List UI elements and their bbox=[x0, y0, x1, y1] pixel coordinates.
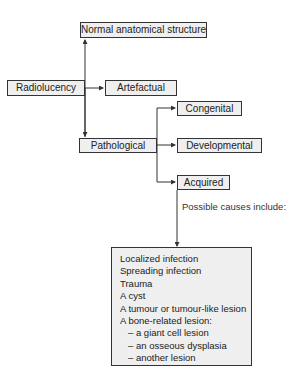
node-acquired: Acquired bbox=[177, 175, 230, 190]
cause-item: A cyst bbox=[120, 290, 243, 302]
bone-subtype-item: – an osseous dysplasia bbox=[120, 340, 243, 352]
cause-item: Spreading infection bbox=[120, 265, 243, 277]
node-radiolucency: Radiolucency bbox=[7, 80, 85, 96]
node-pathological: Pathological bbox=[79, 138, 157, 153]
cause-item: Trauma bbox=[120, 278, 243, 290]
node-artefactual: Artefactual bbox=[105, 80, 177, 96]
cause-item: A tumour or tumour-like lesion bbox=[120, 303, 243, 315]
cause-item: A bone-related lesion: bbox=[120, 315, 243, 327]
bone-subtype-item: – a giant cell lesion bbox=[120, 327, 243, 339]
node-developmental: Developmental bbox=[177, 138, 262, 153]
bone-subtype-item: – another lesion bbox=[120, 352, 243, 364]
possible-causes-label: Possible causes include: bbox=[182, 201, 286, 212]
node-normal-anatomical-structure: Normal anatomical structure bbox=[80, 22, 207, 38]
node-congenital: Congenital bbox=[177, 101, 242, 116]
cause-item: Localized infection bbox=[120, 253, 243, 265]
causes-list-box: Localized infection Spreading infection … bbox=[111, 247, 252, 366]
